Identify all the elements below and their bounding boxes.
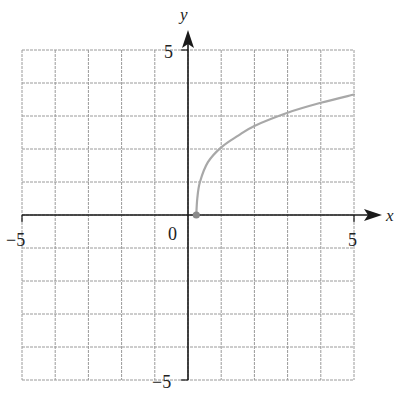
x-max-tick-label: 5 (348, 230, 357, 250)
y-axis-label: y (178, 5, 188, 24)
x-min-tick-label: −5 (6, 230, 25, 250)
origin-label: 0 (168, 224, 177, 244)
curve-start-point (193, 211, 200, 218)
x-axis-label: x (385, 206, 394, 225)
function-curve (196, 95, 354, 215)
function-graph: y x 5 −5 0 5 −5 (0, 0, 400, 397)
y-min-tick-label: −5 (152, 372, 171, 392)
y-max-tick-label: 5 (164, 42, 173, 62)
